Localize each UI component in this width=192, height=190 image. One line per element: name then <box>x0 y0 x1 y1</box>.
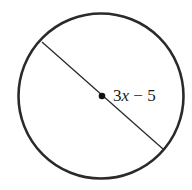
radius-label: 3x − 5 <box>113 86 156 105</box>
center-point <box>99 93 106 100</box>
circle-diagram: 3x − 5 <box>0 0 192 190</box>
